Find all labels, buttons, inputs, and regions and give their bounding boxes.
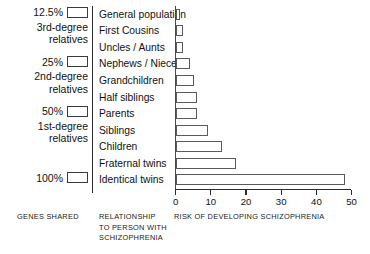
relationship-column: General populationFirst CousinsUncles / … xyxy=(99,6,173,194)
bar-row xyxy=(176,56,354,73)
genes-percent-label: 100% xyxy=(36,172,63,184)
genes-percent-label: 50% xyxy=(42,105,63,117)
genes-group-2nd-degree: 25% 2nd-degree relatives xyxy=(0,54,88,95)
relationship-label: Nephews / Nieces xyxy=(99,56,173,73)
caption-relationship: RELATIONSHIP TO PERSON WITH SCHIZOPHRENI… xyxy=(99,212,167,244)
caption-genes-shared: GENES SHARED xyxy=(17,212,79,223)
genes-percent-label: 25% xyxy=(42,56,63,68)
x-axis-tick xyxy=(281,190,282,195)
genes-degree-line1: 3rd-degree xyxy=(0,21,88,33)
relationship-label: Siblings xyxy=(99,122,173,139)
bar xyxy=(176,75,194,86)
x-axis-tick xyxy=(245,190,246,195)
x-axis-tick-label: 40 xyxy=(311,196,322,207)
genes-swatch-box xyxy=(67,106,88,117)
genes-group-identical: 100% xyxy=(0,170,88,187)
relationship-label: Parents xyxy=(99,105,173,122)
bar-row xyxy=(176,138,354,155)
x-axis-tick xyxy=(210,190,211,195)
bar xyxy=(176,42,183,53)
genes-percent-label: 12.5% xyxy=(33,6,63,18)
y-axis-line xyxy=(175,6,176,189)
x-axis-tick-label: 50 xyxy=(346,196,357,207)
genes-degree-line1: 1st-degree xyxy=(0,120,88,132)
x-axis-tick xyxy=(316,190,317,195)
bar-row xyxy=(176,105,354,122)
bar xyxy=(176,9,180,20)
x-axis-tick xyxy=(351,190,352,195)
genes-shared-column: 12.5% 3rd-degree relatives 25% 2nd-degre… xyxy=(0,4,88,194)
bar-row xyxy=(176,6,354,23)
x-axis-tick xyxy=(175,190,176,195)
bar xyxy=(176,158,236,169)
bar xyxy=(176,25,183,36)
bar-row xyxy=(176,72,354,89)
relationship-label: Grandchildren xyxy=(99,72,173,89)
bar-row xyxy=(176,39,354,56)
genes-degree-line2: relatives xyxy=(0,33,88,45)
bar xyxy=(176,58,190,69)
bar xyxy=(176,174,345,185)
bar xyxy=(176,92,197,103)
relationship-label: Identical twins xyxy=(99,171,173,188)
schizophrenia-risk-figure: 12.5% 3rd-degree relatives 25% 2nd-degre… xyxy=(0,0,370,254)
bar-row xyxy=(176,122,354,139)
genes-swatch-box xyxy=(67,172,88,183)
genes-swatch-box xyxy=(67,7,88,18)
relationship-label: Half siblings xyxy=(99,89,173,106)
bar-row xyxy=(176,155,354,172)
genes-percent-row: 50% xyxy=(0,103,88,120)
bar xyxy=(176,141,222,152)
genes-degree-line2: relatives xyxy=(0,132,88,144)
bar xyxy=(176,108,197,119)
genes-degree-line1: 2nd-degree xyxy=(0,70,88,82)
x-axis-tick-label: 0 xyxy=(173,196,178,207)
relationship-label: Fraternal twins xyxy=(99,155,173,172)
relationship-label: First Cousins xyxy=(99,23,173,40)
genes-group-3rd-degree: 12.5% 3rd-degree relatives xyxy=(0,4,88,45)
relationship-label: Uncles / Aunts xyxy=(99,39,173,56)
x-axis-tick-label: 30 xyxy=(276,196,287,207)
bar-row xyxy=(176,171,354,188)
genes-percent-row: 25% xyxy=(0,54,88,71)
relationship-label: Children xyxy=(99,138,173,155)
bar-row xyxy=(176,89,354,106)
genes-degree-line2: relatives xyxy=(0,83,88,95)
bar-chart: 01020304050 xyxy=(174,6,356,194)
column-divider xyxy=(92,6,93,193)
genes-group-1st-degree: 50% 1st-degree relatives xyxy=(0,103,88,144)
bar xyxy=(176,125,208,136)
genes-percent-row: 100% xyxy=(0,170,88,187)
relationship-label: General population xyxy=(99,6,173,23)
bar-row xyxy=(176,23,354,40)
caption-risk-axis-title: RISK OF DEVELOPING SCHIZOPHRENIA xyxy=(174,212,325,223)
x-axis-line xyxy=(175,189,351,190)
x-axis-tick-label: 10 xyxy=(205,196,216,207)
plot-area xyxy=(176,6,354,189)
genes-swatch-box xyxy=(67,56,88,67)
genes-percent-row: 12.5% xyxy=(0,4,88,21)
x-axis-tick-label: 20 xyxy=(241,196,252,207)
